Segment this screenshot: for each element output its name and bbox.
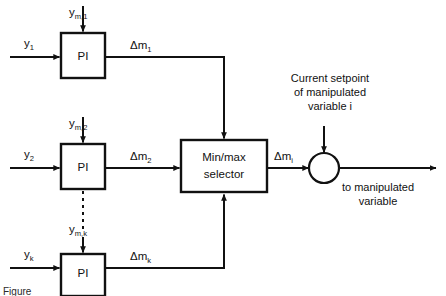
process-input-label-k: yk: [24, 248, 34, 263]
process-input-label-1: y1: [24, 37, 34, 52]
controller-row-k: PI: [10, 195, 224, 296]
output-label-1: Δm1: [130, 39, 152, 54]
output-label-2: Δm2: [130, 150, 152, 165]
setpoint-note-line-2: of manipulated: [294, 86, 366, 98]
selector-block[interactable]: [181, 140, 267, 192]
selector-label-line-2: selector: [204, 168, 244, 180]
figure-caption: Figure: [3, 286, 32, 296]
measurement-label-2: ym,2: [69, 117, 87, 132]
pi-block-2-label: PI: [78, 161, 89, 173]
min-max-selector[interactable]: Min/max selector: [181, 140, 309, 192]
summing-junction-group: [309, 126, 436, 183]
setpoint-note-line-3: variable i: [308, 100, 352, 112]
output-label-k: Δmk: [130, 250, 151, 265]
controller-row-2: PI: [10, 117, 180, 189]
process-input-label-2: y2: [24, 148, 34, 163]
selector-label-line-1: Min/max: [202, 151, 246, 163]
output-wire-1: [105, 57, 224, 139]
selector-output-label: Δmi: [274, 150, 293, 165]
setpoint-note-line-1: Current setpoint: [291, 72, 369, 84]
measurement-label-k: ym,k: [69, 223, 87, 238]
output-note-line-1: to manipulated: [342, 181, 414, 193]
figure-canvas: PI PI PI Min/max selector: [0, 0, 446, 296]
output-wire-k: [105, 195, 224, 269]
controller-row-1: PI: [10, 6, 224, 139]
pi-block-k-label: PI: [78, 267, 89, 279]
output-note-line-2: variable: [359, 195, 398, 207]
pi-block-1-label: PI: [78, 50, 89, 62]
measurement-label-1: ym,1: [69, 6, 87, 21]
summing-junction-circle[interactable]: [309, 153, 339, 183]
